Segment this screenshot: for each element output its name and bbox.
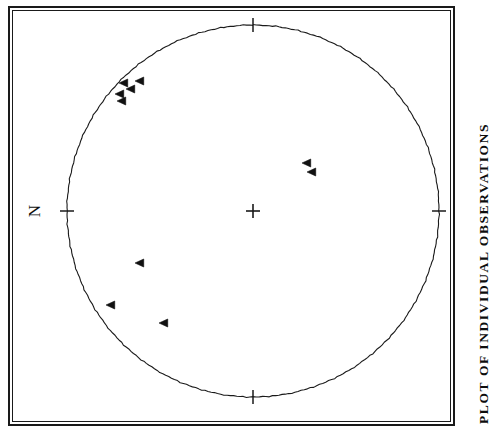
- observation-marker: [106, 301, 115, 309]
- observation-marker: [302, 159, 311, 167]
- north-axis-label: N: [26, 201, 46, 221]
- observation-marker: [135, 259, 144, 267]
- stereonet-svg: [13, 11, 450, 421]
- stereonet-data-points: [106, 77, 316, 327]
- stereonet-center-cross: [246, 204, 260, 218]
- figure-caption: PLOT OF INDIVIDUAL OBSERVATIONS: [476, 123, 492, 424]
- observation-marker: [307, 168, 316, 176]
- observation-marker: [135, 77, 144, 85]
- observation-marker: [115, 90, 124, 98]
- stereonet-plot-area: [13, 11, 450, 421]
- observation-marker: [117, 97, 126, 105]
- observation-marker: [159, 319, 168, 327]
